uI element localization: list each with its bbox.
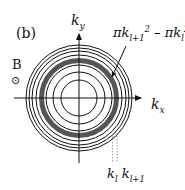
- annotation-pointer: [112, 46, 126, 77]
- panel-label: (b): [16, 26, 36, 40]
- ky-axis-label: ky: [71, 13, 85, 27]
- radius-labels: kl kl+1: [107, 167, 145, 180]
- kx-axis-label: kx: [151, 97, 165, 111]
- magnetic-field-label: B: [12, 58, 22, 71]
- field-out-of-page-icon: ⊙: [11, 75, 20, 86]
- annulus-area-annotation: πkl+12 – πkl2: [113, 26, 185, 39]
- kl1-label: kl+1: [122, 166, 145, 181]
- kl-label: kl: [107, 166, 118, 181]
